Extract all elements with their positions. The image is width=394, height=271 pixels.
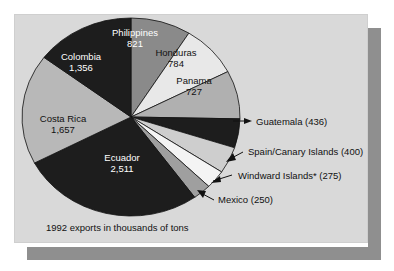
callout-label-guatemala: Guatemala (436) [256,116,327,127]
slice-value-colombia: 1,356 [51,62,111,73]
slice-label-colombia: Colombia 1,356 [51,51,111,73]
slice-value-costa-rica: 1,657 [32,124,94,135]
callout-label-spain-canary-islands: Spain/Canary Islands (400) [248,146,363,157]
slice-name-costa-rica: Costa Rica [40,113,86,124]
slice-label-philippines: Philippines 821 [104,27,166,49]
slice-label-panama: Panama 727 [169,75,219,97]
slice-name-colombia: Colombia [61,51,101,62]
leader-arrow-guatemala [244,118,252,124]
chart-caption: 1992 exports in thousands of tons [46,222,189,233]
slice-name-philippines: Philippines [112,27,158,38]
slice-label-ecuador: Ecuador 2,511 [94,152,150,174]
callout-label-windward-islands: Windward Islands* (275) [238,170,342,181]
slice-label-honduras: Honduras 784 [148,47,204,69]
slice-name-panama: Panama [176,75,211,86]
slice-label-costa-rica: Costa Rica 1,657 [32,113,94,135]
callout-label-mexico: Mexico (250) [218,194,273,205]
slice-name-ecuador: Ecuador [104,152,139,163]
slice-value-ecuador: 2,511 [94,163,150,174]
slice-value-honduras: 784 [148,58,204,69]
slice-name-honduras: Honduras [155,47,196,58]
slice-value-panama: 727 [169,86,219,97]
figure-root: Philippines 821 Honduras 784 Panama 727 … [0,0,394,271]
